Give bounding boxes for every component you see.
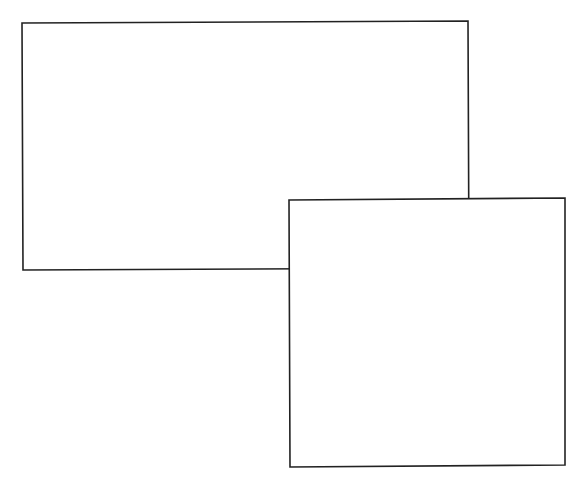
diagram-svg xyxy=(0,0,581,484)
diagram-canvas xyxy=(0,0,581,484)
front-rectangle xyxy=(289,198,565,467)
